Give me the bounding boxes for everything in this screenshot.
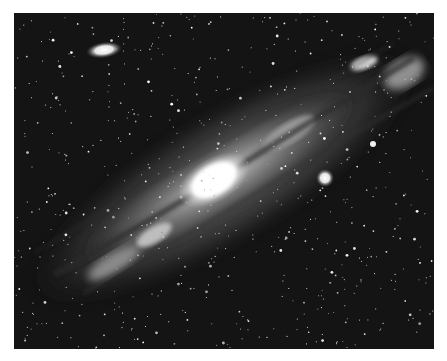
galaxy-scene [14,13,434,349]
galaxy-photograph [14,13,434,349]
satellite-galaxy-compact [316,169,334,187]
bright-star [370,141,376,147]
